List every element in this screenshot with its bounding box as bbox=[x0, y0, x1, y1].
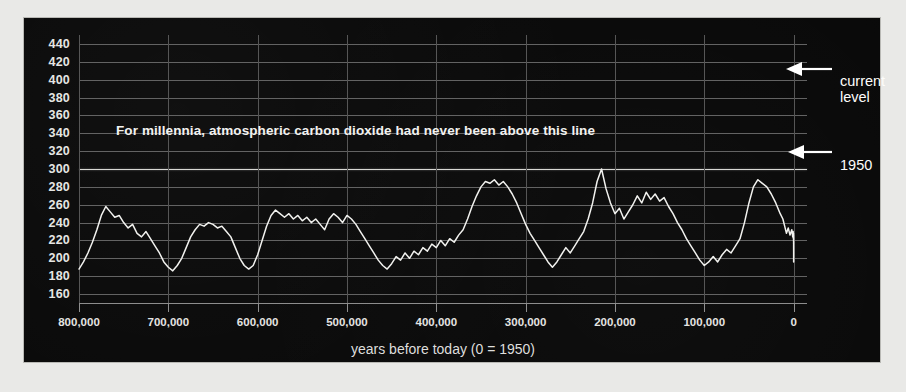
annotation-arrows bbox=[0, 0, 906, 392]
chart-screenshot: 4404204003803603403203002802602402202001… bbox=[0, 0, 906, 392]
arrow-1950 bbox=[788, 145, 832, 159]
arrow-current-level bbox=[786, 62, 832, 76]
